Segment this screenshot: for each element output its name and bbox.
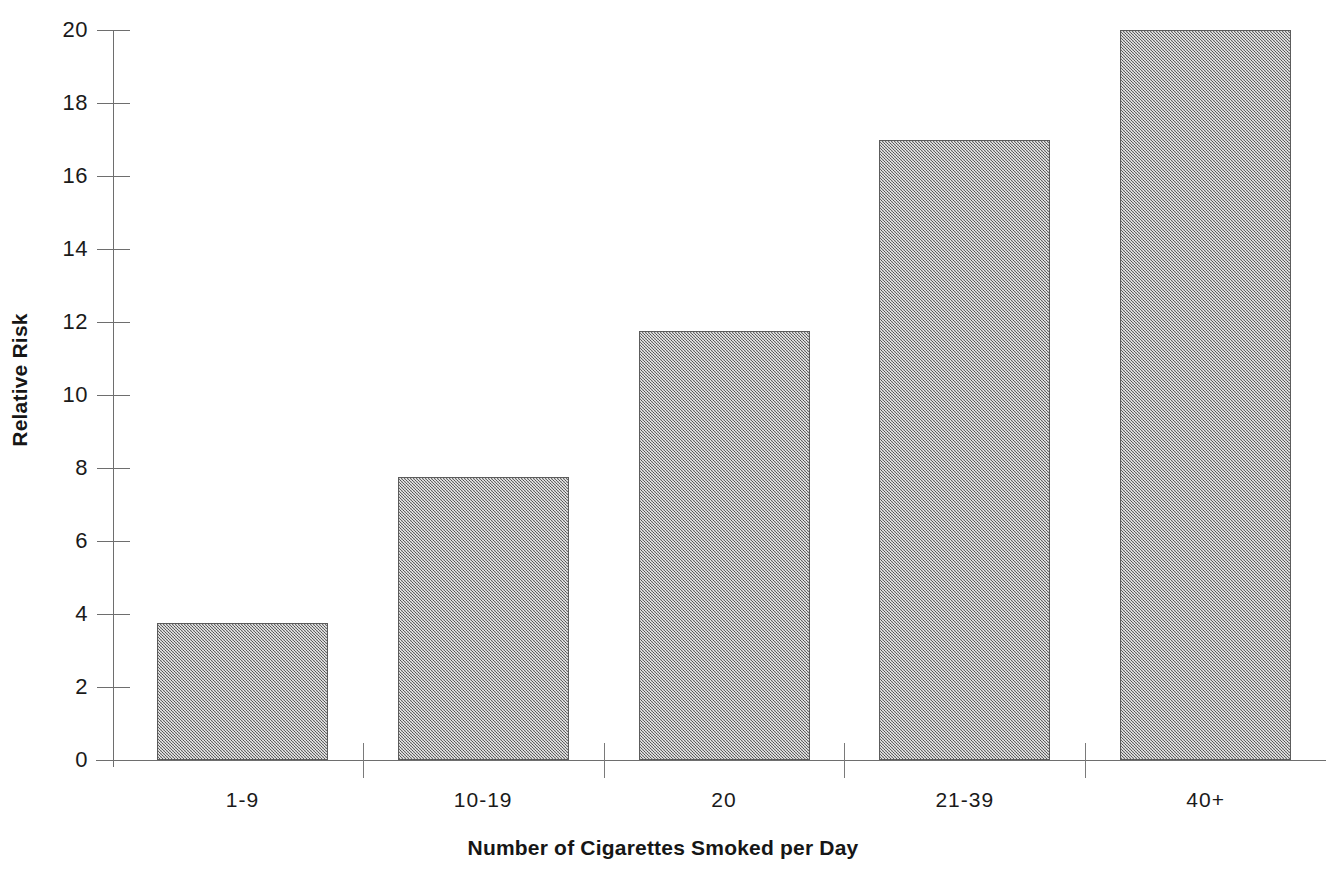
y-axis-tick-label: 2 (36, 674, 88, 700)
y-axis-tick-label: 4 (36, 601, 88, 627)
y-axis-tick-label: 14 (36, 236, 88, 262)
x-axis-tick-label: 21-39 (935, 788, 994, 812)
y-axis-tick (97, 30, 130, 31)
x-axis-tick-label: 10-19 (454, 788, 513, 812)
bar (639, 331, 810, 760)
bar (1120, 30, 1291, 760)
y-axis-tick-label: 16 (36, 163, 88, 189)
y-axis-tick-label: 20 (36, 17, 88, 43)
y-axis-tick-label: 8 (36, 455, 88, 481)
bar (157, 623, 328, 760)
y-axis-tick (97, 103, 130, 104)
x-axis-tick-label: 40+ (1186, 788, 1225, 812)
y-axis-tick (97, 249, 130, 250)
x-axis-tick-label: 20 (711, 788, 736, 812)
y-axis-title: Relative Risk (0, 0, 40, 760)
y-axis-tick (97, 468, 130, 469)
y-axis-tick (97, 541, 130, 542)
x-axis-title: Number of Cigarettes Smoked per Day (0, 836, 1326, 860)
y-axis-tick-label: 18 (36, 90, 88, 116)
y-axis-tick (97, 395, 130, 396)
y-axis-tick-label: 10 (36, 382, 88, 408)
x-axis-tick (844, 743, 845, 778)
y-axis-tick (97, 760, 130, 761)
y-axis-line (113, 30, 114, 767)
x-axis-tick (604, 743, 605, 778)
x-axis-tick (363, 743, 364, 778)
y-axis-tick (97, 614, 130, 615)
bar-chart: Relative Risk 024681012141618201-910-192… (0, 0, 1326, 884)
y-axis-tick-label: 6 (36, 528, 88, 554)
bar (879, 140, 1050, 761)
x-axis-tick (1085, 743, 1086, 778)
y-axis-title-text: Relative Risk (8, 313, 32, 446)
y-axis-tick (97, 322, 130, 323)
x-axis-tick-label: 1-9 (226, 788, 259, 812)
y-axis-tick (97, 176, 130, 177)
y-axis-tick-label: 12 (36, 309, 88, 335)
x-axis-line (96, 760, 1326, 761)
bar (398, 477, 569, 760)
y-axis-tick-label: 0 (36, 747, 88, 773)
y-axis-tick (97, 687, 130, 688)
